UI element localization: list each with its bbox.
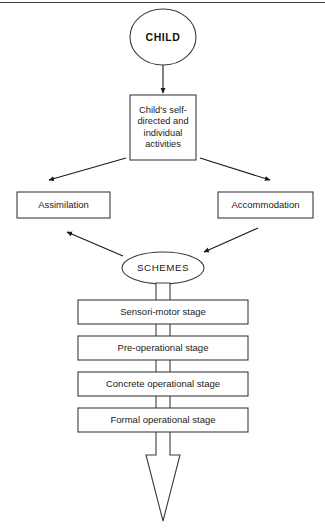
stage-node-shape-1: [78, 336, 248, 360]
accommodation-node-shape: [218, 192, 313, 218]
stage-node-shape-0: [78, 300, 248, 324]
diagram-page: CHILD Child's self-directed and individu…: [0, 0, 325, 529]
connector-activities-to-accommodation: [200, 158, 270, 180]
piaget-cognitive-development-diagram: [0, 0, 325, 529]
assimilation-node-shape: [17, 192, 110, 218]
stage-node-shape-2: [78, 372, 248, 396]
connector-activities-to-assimilation: [49, 158, 126, 180]
activities-node-shape: [130, 95, 196, 160]
connector-schemes-to-assimilation: [67, 232, 123, 256]
connector-accommodation-to-schemes: [204, 228, 258, 252]
stage-node-shape-3: [78, 408, 248, 432]
schemes-node-shape: [122, 252, 204, 284]
child-node-shape: [130, 9, 196, 65]
